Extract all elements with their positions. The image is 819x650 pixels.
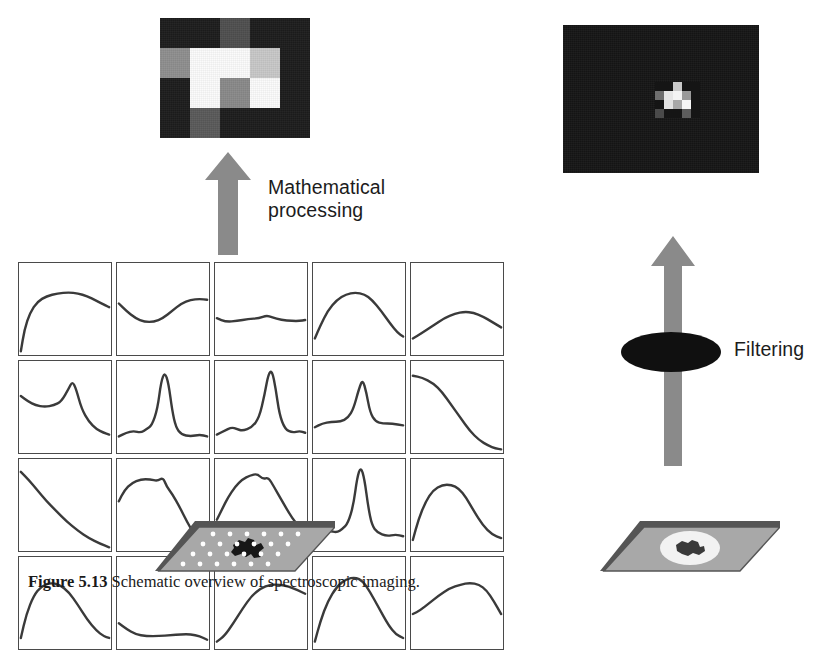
filtered-cell-r1-c2 [673, 91, 682, 100]
sampling-point [228, 532, 233, 537]
spectrum-curve [119, 299, 207, 322]
mosaic-cell-r0-c3 [250, 18, 280, 48]
spectrum-curve [413, 376, 501, 450]
spectrum-plot-r2c5 [410, 360, 504, 454]
sampling-point [259, 552, 264, 557]
spectrum-curve [21, 293, 109, 352]
sampling-point [181, 562, 186, 567]
filtered-cell-r2-c3 [682, 100, 691, 109]
spectrum-plot-r3c5 [410, 458, 504, 552]
filtered-cell-r3-c3 [682, 109, 691, 118]
math-processing-arrow [205, 152, 251, 255]
sampling-point [249, 562, 254, 567]
mosaic-cell-r0-c0 [160, 18, 190, 48]
spectrum-curve [315, 293, 403, 339]
spectrum-curve [119, 623, 207, 640]
figure-caption: Figure 5.13 Schematic overview of spectr… [28, 572, 808, 592]
mosaic-cell-r3-c1 [190, 108, 220, 138]
spectrum-curve [21, 472, 109, 547]
caption-text: Schematic overview of spectroscopic imag… [112, 572, 420, 591]
filtered-cell-r1-c4 [691, 91, 700, 100]
filtered-cell-r3-c0 [655, 109, 664, 118]
sampling-point [276, 552, 281, 557]
mosaic-cell-r1-c2 [220, 48, 250, 78]
sampling-point [218, 542, 223, 547]
spectrum-curve [217, 316, 305, 322]
spectrum-curve [315, 382, 403, 427]
sampling-point [266, 562, 271, 567]
mosaic-cell-r1-c1 [190, 48, 220, 78]
mosaic-cell-r0-c2 [220, 18, 250, 48]
filtered-cell-r2-c2 [673, 100, 682, 109]
spectrum-plot-r1c3 [214, 262, 308, 356]
mosaic-cell-r3-c2 [220, 108, 250, 138]
mosaic-cell-r2-c2 [220, 78, 250, 108]
caption-number: Figure 5.13 [28, 572, 107, 591]
sampling-point [245, 532, 250, 537]
spectrum-curve [217, 585, 305, 642]
sampling-point [215, 562, 220, 567]
mosaic-cell-r2-c4 [280, 78, 310, 108]
spectrum-plot-r2c2 [116, 360, 210, 454]
filtered-image-panel [563, 25, 759, 173]
sampling-point [242, 552, 247, 557]
spectrum-plot-r1c5 [410, 262, 504, 356]
mosaic-cell-r3-c0 [160, 108, 190, 138]
sampling-point [269, 542, 274, 547]
spectrum-plot-r1c1 [18, 262, 112, 356]
sampling-point [191, 552, 196, 557]
chemical-image-mosaic [160, 18, 310, 138]
spectrum-curve [217, 372, 305, 435]
sampling-point [225, 552, 230, 557]
spectrum-plot-r2c1 [18, 360, 112, 454]
spectrum-plot-r2c4 [312, 360, 406, 454]
spectrum-curve [413, 312, 501, 338]
mosaic-cell-r3-c4 [280, 108, 310, 138]
sampling-point [198, 562, 203, 567]
spectrum-curve [21, 383, 109, 435]
sampling-point [296, 532, 301, 537]
mosaic-cell-r0-c4 [280, 18, 310, 48]
math-processing-label: Mathematical processing [268, 176, 438, 222]
filtered-cell-r2-c1 [664, 100, 673, 109]
mosaic-cell-r1-c3 [250, 48, 280, 78]
mosaic-cell-r1-c4 [280, 48, 310, 78]
mosaic-cell-r0-c1 [190, 18, 220, 48]
sampling-point [201, 542, 206, 547]
filtered-cell-r3-c1 [664, 109, 673, 118]
filtered-chemical-image [655, 82, 700, 118]
mosaic-cell-r2-c0 [160, 78, 190, 108]
spectrum-plot-r2c3 [214, 360, 308, 454]
sample-slide-gridded [155, 515, 335, 577]
optical-filter-ellipse [621, 332, 721, 372]
filtered-cell-r1-c1 [664, 91, 673, 100]
mosaic-cell-r2-c3 [250, 78, 280, 108]
filtered-cell-r3-c2 [673, 109, 682, 118]
spectrum-plot-r1c2 [116, 262, 210, 356]
sampling-point [279, 532, 284, 537]
filtered-cell-r0-c1 [664, 82, 673, 91]
spectrum-plot-r4c5 [410, 556, 504, 650]
filtering-label: Filtering [734, 338, 819, 361]
filtered-cell-r2-c0 [655, 100, 664, 109]
sampling-point [235, 542, 240, 547]
filtered-cell-r0-c3 [682, 82, 691, 91]
filtered-cell-r2-c4 [691, 100, 700, 109]
filtered-cell-r0-c4 [691, 82, 700, 91]
spectrum-plot-r1c4 [312, 262, 406, 356]
sampling-point [262, 532, 267, 537]
filtered-cell-r0-c0 [655, 82, 664, 91]
filtered-cell-r1-c3 [682, 91, 691, 100]
spectrum-curve [413, 485, 501, 540]
sampling-point [208, 552, 213, 557]
mosaic-cell-r2-c1 [190, 78, 220, 108]
filtered-cell-r1-c0 [655, 91, 664, 100]
spectrum-curve [119, 375, 207, 437]
filtered-cell-r0-c2 [673, 82, 682, 91]
mosaic-cell-r1-c0 [160, 48, 190, 78]
mosaic-cell-r3-c3 [250, 108, 280, 138]
sampling-point [286, 542, 291, 547]
sampling-point [232, 562, 237, 567]
sample-slide-plain [600, 515, 780, 577]
